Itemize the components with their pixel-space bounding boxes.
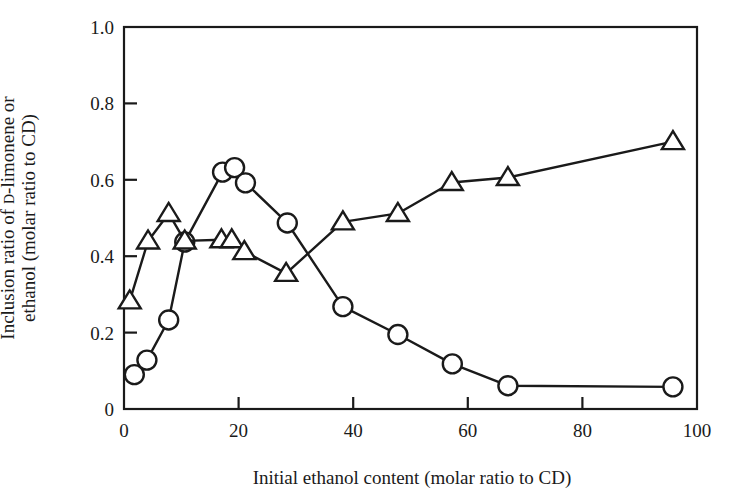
y-axis-title-line2: ethanol (molar ratio to CD) [18,114,40,322]
y-axis-tick-labels: 1.0 0.8 0.6 0.4 0.2 0 [90,17,114,420]
data-point-circle-2 [159,310,178,329]
series-triangle [119,131,684,308]
line-chart: ethanol (molar ratio to CD) Inclusion ra… [0,0,732,498]
data-point-circle-9 [388,325,407,344]
data-series-layer [119,131,684,396]
y-axis-title: ethanol (molar ratio to CD) Inclusion ra… [0,96,40,340]
y-tick-label-0.4: 0.4 [90,246,114,267]
y-tick-label-0.6: 0.6 [90,170,114,191]
data-point-circle-1 [137,351,156,370]
data-point-circle-6 [236,173,255,192]
chart-figure: ethanol (molar ratio to CD) Inclusion ra… [0,0,732,498]
data-point-triangle-1 [137,230,159,248]
data-point-circle-8 [333,297,352,316]
data-point-circle-12 [663,377,682,396]
series-line-circle [134,168,673,387]
x-tick-label-100: 100 [683,420,712,441]
y-tick-label-0.8: 0.8 [90,93,114,114]
data-point-triangle-2 [158,203,180,221]
data-point-triangle-9 [387,203,409,221]
plot-frame [124,27,697,409]
y-axis-title-part-a: Inclusion ratio of [0,204,18,340]
x-tick-label-60: 60 [458,420,477,441]
x-tick-label-0: 0 [119,420,129,441]
data-point-triangle-0 [119,290,141,308]
x-tick-label-80: 80 [573,420,592,441]
series-circle [125,158,683,396]
x-axis-title: Initial ethanol content (molar ratio to … [253,467,572,489]
x-tick-label-40: 40 [344,420,363,441]
y-axis-title-line1: Inclusion ratio of D-limonene or [0,96,18,340]
y-tick-label-0: 0 [105,399,115,420]
y-axis-title-smallcaps: D [2,194,17,204]
x-tick-label-20: 20 [229,420,248,441]
x-axis-ticks [239,397,583,409]
data-point-circle-10 [443,354,462,373]
y-tick-label-1.0: 1.0 [90,17,114,38]
y-tick-label-0.2: 0.2 [90,323,114,344]
x-axis-tick-labels: 0 20 40 60 80 100 [119,420,711,441]
data-point-circle-7 [278,213,297,232]
y-axis-title-part-b: -limonene or [0,96,18,194]
data-point-circle-11 [498,376,517,395]
data-point-triangle-12 [662,131,684,149]
